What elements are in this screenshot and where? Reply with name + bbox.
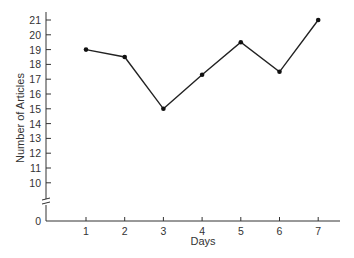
data-point	[84, 47, 89, 52]
y-tick-label: 0	[35, 215, 41, 227]
x-axis: 1234567	[46, 217, 340, 237]
y-tick-label: 20	[29, 29, 41, 41]
x-axis-title: Days	[190, 235, 216, 247]
y-tick-label: 14	[29, 118, 41, 130]
y-tick-label: 11	[30, 162, 41, 174]
data-point	[316, 18, 321, 23]
x-tick-label: 7	[315, 225, 321, 237]
y-tick-label: 13	[29, 132, 41, 144]
data-point	[239, 40, 244, 45]
data-point	[122, 55, 127, 60]
x-tick-label: 6	[277, 225, 283, 237]
x-tick-label: 2	[122, 225, 128, 237]
y-tick-label: 15	[29, 103, 41, 115]
data-series	[84, 18, 321, 111]
data-point	[161, 107, 166, 112]
y-tick-label: 21	[29, 14, 41, 26]
y-tick-label: 12	[29, 147, 41, 159]
y-tick-label: 17	[29, 73, 41, 85]
y-tick-label: 18	[29, 58, 41, 70]
series-line	[86, 20, 318, 109]
data-point	[200, 72, 205, 77]
y-axis: 0101112131415161718192021	[29, 12, 51, 227]
y-axis-title: Number of Articles	[14, 73, 26, 163]
line-chart: 0101112131415161718192021 1234567 Days N…	[0, 0, 354, 258]
x-tick-label: 1	[83, 225, 89, 237]
x-tick-label: 3	[160, 225, 166, 237]
y-tick-label: 10	[29, 177, 41, 189]
data-point	[277, 70, 282, 75]
y-tick-label: 19	[29, 44, 41, 56]
axis-break-mark	[42, 202, 50, 204]
y-tick-label: 16	[29, 88, 41, 100]
x-tick-label: 5	[238, 225, 244, 237]
